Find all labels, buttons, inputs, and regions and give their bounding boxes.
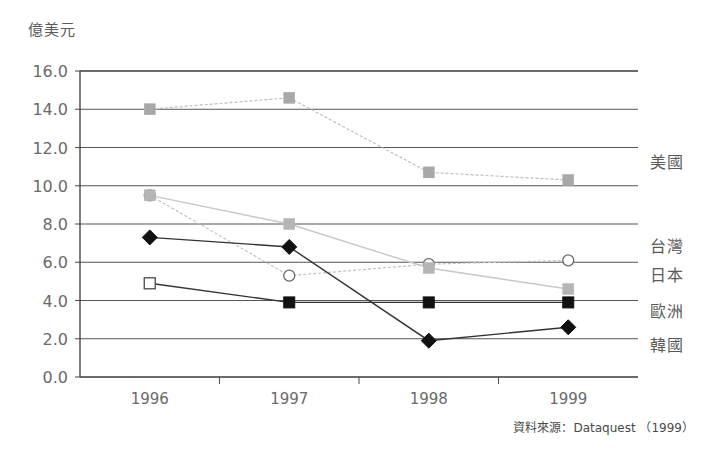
- data-point-marker: [423, 297, 434, 308]
- data-point-marker: [284, 219, 295, 230]
- data-point-marker: [284, 270, 295, 281]
- series-3: [144, 278, 574, 308]
- data-point-marker: [282, 239, 297, 254]
- series-line: [150, 98, 569, 180]
- chart-page: 億美元 0.02.04.06.08.010.012.014.016.019961…: [0, 0, 708, 451]
- data-point-marker: [284, 297, 295, 308]
- series-line: [150, 283, 569, 302]
- series-4: [142, 230, 576, 348]
- series-line: [150, 237, 569, 340]
- legend-label-4: 韓國: [650, 336, 684, 355]
- data-point-marker: [144, 190, 155, 201]
- legend-label-2: 日本: [650, 266, 684, 285]
- legend-label-1: 台灣: [650, 237, 684, 256]
- x-axis-tick-label: 1996: [131, 390, 169, 408]
- data-point-marker: [563, 297, 574, 308]
- data-point-marker: [144, 104, 155, 115]
- series-line: [150, 195, 569, 275]
- data-point-marker: [563, 284, 574, 295]
- y-axis-tick-label: 4.0: [43, 292, 68, 311]
- y-axis-tick-label: 2.0: [43, 330, 68, 349]
- y-axis-tick-label: 0.0: [43, 368, 68, 387]
- y-axis-tick-label: 8.0: [43, 215, 68, 234]
- x-axis-tick-label: 1997: [270, 390, 308, 408]
- series-0: [144, 92, 574, 185]
- legend-label-3: 歐洲: [650, 302, 684, 321]
- line-chart: 0.02.04.06.08.010.012.014.016.0199619971…: [0, 0, 708, 451]
- data-point-marker: [561, 320, 576, 335]
- data-point-marker: [563, 255, 574, 266]
- y-axis-tick-label: 12.0: [32, 139, 68, 158]
- data-point-marker: [421, 333, 436, 348]
- series-1: [144, 190, 574, 281]
- y-axis-tick-label: 6.0: [43, 253, 68, 272]
- data-point-marker: [142, 230, 157, 245]
- data-point-marker: [563, 175, 574, 186]
- data-point-marker: [423, 262, 434, 273]
- data-point-marker: [144, 278, 155, 289]
- y-axis-tick-label: 16.0: [32, 62, 68, 81]
- x-axis-tick-label: 1998: [410, 390, 448, 408]
- series-2: [144, 190, 574, 295]
- legend-label-0: 美國: [650, 153, 684, 172]
- y-axis-tick-label: 14.0: [32, 100, 68, 119]
- data-point-marker: [423, 167, 434, 178]
- y-axis-tick-label: 10.0: [32, 177, 68, 196]
- source-note: 資料來源：Dataquest （1999）: [513, 418, 694, 435]
- data-point-marker: [284, 92, 295, 103]
- x-axis-tick-label: 1999: [549, 390, 587, 408]
